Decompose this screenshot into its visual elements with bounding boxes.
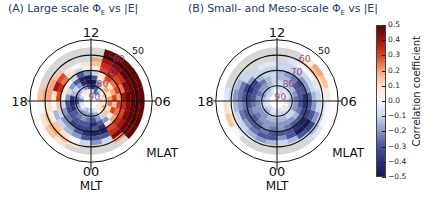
mlat-tick-80: 80: [282, 78, 294, 89]
polar-plot-a: 12060018MLTMLAT9080706050: [11, 25, 179, 193]
colorbar-tick-label: 0.2: [388, 67, 400, 75]
polar-cell: [271, 117, 277, 122]
mlt-label-06: 06: [154, 94, 171, 109]
mlat-axis-label: MLAT: [332, 146, 365, 160]
colorbar-tick-label: 0.0: [388, 97, 400, 105]
mlt-label-00: 00: [83, 164, 100, 179]
colorbar-tick-mark: [382, 177, 386, 178]
colorbar-tick-label: 0.4: [388, 36, 400, 44]
polar-cell: [85, 117, 91, 122]
colorbar-tick-mark: [382, 147, 386, 148]
colorbar-tick-mark: [382, 40, 386, 41]
colorbar-tick-label: 0.5: [388, 21, 400, 29]
mlt-label-12: 12: [269, 25, 286, 40]
polar-cell: [84, 122, 91, 127]
mlat-tick-50: 50: [318, 45, 330, 56]
colorbar-label: Correlation coefficient: [411, 57, 422, 147]
colorbar-tick-label: −0.2: [388, 127, 406, 135]
colorbar-tick-label: −0.1: [388, 112, 406, 120]
polar-cell: [112, 101, 117, 108]
polar-cell: [65, 94, 70, 101]
mlt-label-18: 18: [11, 94, 28, 109]
mlat-tick-90: 90: [88, 91, 100, 102]
polar-cell: [107, 101, 112, 107]
colorbar-tick-mark: [382, 55, 386, 56]
mlat-axis-label: MLAT: [146, 146, 179, 160]
colorbar-tick-mark: [382, 86, 386, 87]
mlat-tick-60: 60: [113, 53, 125, 64]
polar-cell: [298, 101, 303, 108]
mlat-tick-70: 70: [105, 66, 117, 77]
mlat-tick-60: 60: [299, 53, 311, 64]
colorbar-tick-label: 0.3: [388, 51, 400, 59]
polar-cell: [251, 94, 256, 101]
colorbar-tick-mark: [382, 131, 386, 132]
mlt-axis-label: MLT: [80, 179, 103, 193]
mlat-tick-90: 90: [274, 91, 286, 102]
polar-plots: 12060018MLTMLAT9080706050 12060018MLTMLA…: [0, 0, 425, 202]
mlat-tick-50: 50: [132, 45, 144, 56]
colorbar-tick-mark: [382, 116, 386, 117]
polar-cell: [256, 95, 261, 101]
colorbar-tick-mark: [382, 71, 386, 72]
colorbar-tick-mark: [382, 25, 386, 26]
mlt-label-00: 00: [269, 164, 286, 179]
polar-plot-b: 12060018MLTMLAT9080706050: [197, 25, 365, 193]
mlat-tick-80: 80: [96, 78, 108, 89]
colorbar-tick-mark: [382, 101, 386, 102]
mlt-label-06: 06: [340, 94, 357, 109]
colorbar-tick-label: −0.5: [388, 173, 406, 181]
colorbar-tick-label: −0.4: [388, 158, 406, 166]
mlt-label-18: 18: [197, 94, 214, 109]
mlat-tick-70: 70: [291, 66, 303, 77]
polar-cell: [293, 101, 298, 107]
colorbar-tick-label: 0.1: [388, 82, 400, 90]
mlt-label-12: 12: [83, 25, 100, 40]
polar-cell: [70, 95, 75, 101]
mlt-axis-label: MLT: [266, 179, 289, 193]
polar-cell: [270, 122, 277, 127]
colorbar-tick-mark: [382, 162, 386, 163]
colorbar-tick-label: −0.3: [388, 143, 406, 151]
